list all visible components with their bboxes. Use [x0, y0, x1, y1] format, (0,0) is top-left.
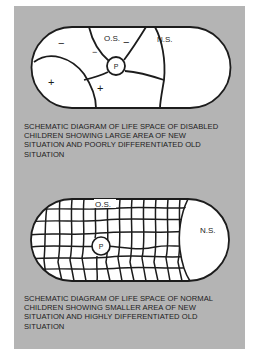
caption-line: SITUATION AND HIGHLY DIFFERENTIATED OLD: [24, 312, 198, 321]
caption-line: CHILDREN SHOWING SMALLER AREA OF NEW: [24, 303, 196, 312]
old-situation-label: O.S.: [95, 200, 111, 209]
caption-line: SITUATION: [24, 322, 64, 331]
new-situation-label: N.S.: [200, 226, 216, 235]
caption-normal-children: SCHEMATIC DIAGRAM OF LIFE SPACE OF NORMA…: [24, 294, 238, 331]
person-label: P: [99, 243, 104, 250]
caption-line: SCHEMATIC DIAGRAM OF LIFE SPACE OF NORMA…: [24, 294, 213, 303]
